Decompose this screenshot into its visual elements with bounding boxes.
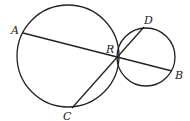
segment-AB	[23, 33, 172, 71]
small-circle	[117, 28, 175, 86]
point-label-A: A	[10, 24, 19, 37]
segment-CD	[72, 27, 144, 108]
point-label-R: R	[105, 43, 114, 56]
geometry-diagram: A B C D R	[0, 0, 190, 121]
point-label-D: D	[143, 14, 153, 27]
point-label-B: B	[174, 69, 183, 82]
large-circle	[17, 5, 119, 107]
point-label-C: C	[63, 110, 72, 121]
